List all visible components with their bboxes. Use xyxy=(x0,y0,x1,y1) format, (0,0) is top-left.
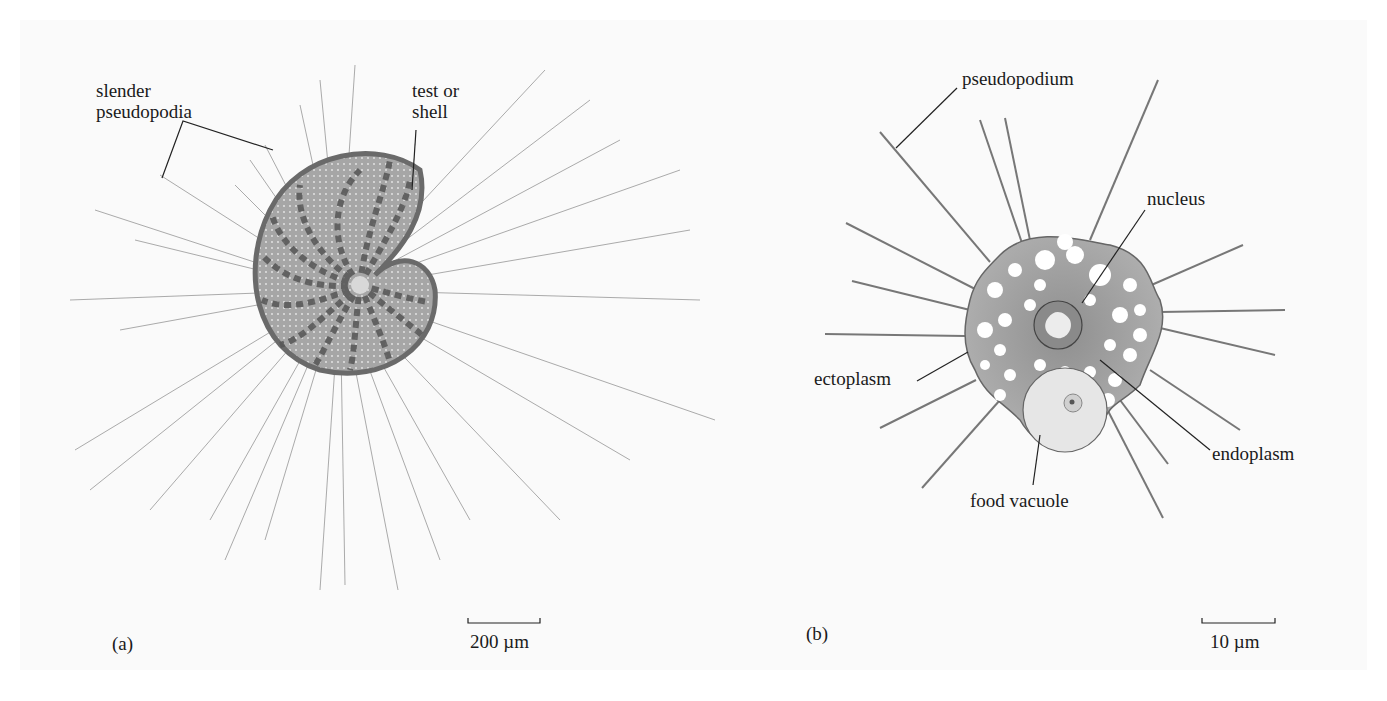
scale-bar-a-label: 200 µm xyxy=(470,631,529,653)
food-vacuole xyxy=(1023,368,1107,452)
diagram-canvas xyxy=(0,0,1387,701)
label-test-or-shell-line2: shell xyxy=(412,101,448,123)
label-endoplasm: endoplasm xyxy=(1212,443,1294,465)
label-slender-pseudopodia-line1: slender xyxy=(96,80,151,102)
foraminifera-shell xyxy=(255,154,435,374)
label-nucleus: nucleus xyxy=(1147,188,1205,210)
label-pseudopodium: pseudopodium xyxy=(962,68,1074,90)
panel-b-id: (b) xyxy=(806,623,828,645)
scale-bar-a xyxy=(468,618,540,623)
label-slender-pseudopodia-line2: pseudopodia xyxy=(96,101,192,123)
cell-body xyxy=(965,234,1163,452)
label-test-or-shell-line1: test or xyxy=(412,80,459,102)
label-ectoplasm: ectoplasm xyxy=(814,368,891,390)
panel-a-id: (a) xyxy=(112,633,133,655)
scale-bar-b xyxy=(1202,618,1275,623)
label-food-vacuole: food vacuole xyxy=(970,490,1069,512)
scale-bar-b-label: 10 µm xyxy=(1210,631,1259,653)
